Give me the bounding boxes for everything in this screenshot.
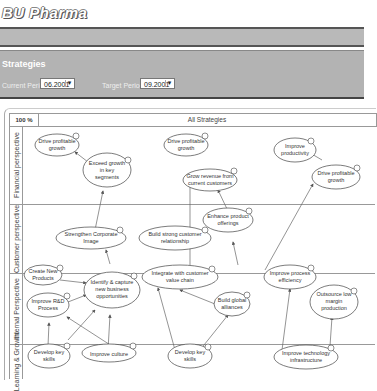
svg-text:infrastructure: infrastructure xyxy=(290,357,322,363)
svg-text:Improve: Improve xyxy=(285,143,305,149)
svg-text:Outsource low: Outsource low xyxy=(316,291,351,297)
svg-text:Products: Products xyxy=(32,275,54,281)
svg-text:Exceed growth: Exceed growth xyxy=(89,160,125,166)
svg-text:Improve process: Improve process xyxy=(270,270,311,276)
node-strengthen-corporate-image[interactable]: Strengthen CorporateImage xyxy=(56,227,126,249)
node-develop-key-skills[interactable]: Develop keyskills xyxy=(28,343,70,368)
status-icon xyxy=(131,273,137,279)
svg-text:new business: new business xyxy=(95,286,129,292)
node-drive-profitable-growth[interactable]: Drive profitablegrowth xyxy=(35,133,79,156)
svg-text:skills: skills xyxy=(184,356,196,362)
status-icon xyxy=(64,293,70,299)
svg-text:Process: Process xyxy=(38,305,58,311)
node-improve-rd-process[interactable]: Improve R&DProcess xyxy=(27,293,70,317)
svg-text:value chain: value chain xyxy=(166,277,194,283)
svg-text:Drive profitable: Drive profitable xyxy=(39,138,76,144)
status-icon xyxy=(73,133,79,139)
svg-text:growth: growth xyxy=(49,145,66,151)
svg-text:Drive profitable: Drive profitable xyxy=(168,138,205,144)
node-create-new-products[interactable]: Create NewProducts xyxy=(24,265,63,285)
status-icon xyxy=(57,265,63,271)
node-drive-profitable-growth-2[interactable]: Drive profitablegrowth xyxy=(164,133,208,156)
svg-text:Create New: Create New xyxy=(28,268,57,274)
svg-text:growth: growth xyxy=(328,177,345,183)
svg-text:efficiency: efficiency xyxy=(279,277,302,283)
node-drive-profitable-growth-3[interactable]: Drive profitablegrowth xyxy=(312,165,360,189)
svg-text:growth: growth xyxy=(178,145,195,151)
status-icon xyxy=(231,168,237,174)
status-icon xyxy=(308,138,314,144)
svg-text:margin: margin xyxy=(326,298,343,304)
svg-text:offerings: offerings xyxy=(218,220,239,226)
node-improve-technology-infrastructure[interactable]: Improve technologyinfrastructure xyxy=(274,345,338,369)
svg-text:Build strong customer: Build strong customer xyxy=(148,231,201,237)
svg-text:in key: in key xyxy=(100,167,115,173)
node-develop-key-skills-2[interactable]: Develop keyskills xyxy=(168,344,212,368)
node-exceed-growth[interactable]: Exceed growthin keysegments xyxy=(83,153,131,187)
svg-text:Drive profitable: Drive profitable xyxy=(318,170,355,176)
svg-text:opportunities: opportunities xyxy=(96,293,128,299)
status-icon xyxy=(246,208,252,214)
svg-text:skills: skills xyxy=(43,356,55,362)
status-icon xyxy=(351,288,357,294)
status-icon xyxy=(130,343,136,349)
node-integrate-customer-value-chain[interactable]: Integrate with customervalue chain xyxy=(142,265,218,289)
svg-text:productivity: productivity xyxy=(281,150,309,156)
svg-text:Integrate with customer: Integrate with customer xyxy=(151,270,208,276)
svg-text:Identify & capture: Identify & capture xyxy=(91,279,134,285)
node-grow-revenue[interactable]: Grow revenue fromcurrent customers xyxy=(183,168,237,191)
svg-text:Develop key: Develop key xyxy=(175,349,206,355)
status-icon xyxy=(244,292,250,298)
status-icon xyxy=(117,227,123,233)
status-icon xyxy=(202,133,208,139)
status-icon xyxy=(354,165,360,171)
svg-text:segments: segments xyxy=(95,174,119,180)
svg-text:current customers: current customers xyxy=(188,180,232,186)
node-improve-productivity[interactable]: Improveproductivity xyxy=(274,138,316,162)
svg-text:alliances: alliances xyxy=(221,304,243,310)
svg-text:relationship: relationship xyxy=(161,238,189,244)
svg-text:Enhance product: Enhance product xyxy=(207,213,249,219)
svg-text:Strengthen Corporate: Strengthen Corporate xyxy=(65,231,118,237)
status-icon xyxy=(205,344,211,350)
svg-text:Improve R&D: Improve R&D xyxy=(31,298,64,304)
status-icon xyxy=(64,343,70,349)
svg-text:Build global: Build global xyxy=(218,297,246,303)
svg-text:Grow revenue from: Grow revenue from xyxy=(186,173,233,179)
node-identify-capture-opportunities[interactable]: Identify & capturenew businessopportunit… xyxy=(84,272,140,308)
svg-text:Image: Image xyxy=(83,238,98,244)
svg-text:production: production xyxy=(321,305,347,311)
svg-text:Develop key: Develop key xyxy=(34,349,65,355)
node-improve-process-efficiency[interactable]: Improve processefficiency xyxy=(264,265,316,289)
node-build-global-alliances[interactable]: Build globalalliances xyxy=(214,292,250,316)
status-icon xyxy=(308,265,314,271)
node-build-strong-customer-relationship[interactable]: Build strong customerrelationship xyxy=(139,226,211,250)
svg-text:Improve technology: Improve technology xyxy=(282,350,330,356)
svg-text:Improve culture: Improve culture xyxy=(90,351,128,357)
node-outsource-low-margin-production[interactable]: Outsource lowmarginproduction xyxy=(310,285,358,319)
status-icon xyxy=(202,227,208,233)
status-icon xyxy=(328,345,334,351)
status-icon xyxy=(125,157,131,163)
node-enhance-product-offerings[interactable]: Enhance productofferings xyxy=(203,208,253,232)
status-icon xyxy=(209,266,215,272)
node-improve-culture[interactable]: Improve culture xyxy=(82,343,136,362)
